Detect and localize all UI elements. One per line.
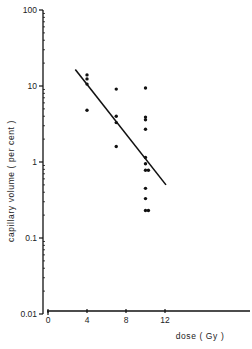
- data-point: [144, 128, 147, 131]
- data-point: [144, 169, 147, 172]
- data-point: [115, 145, 118, 148]
- x-tick-label: 4: [85, 315, 90, 325]
- data-point: [85, 77, 88, 80]
- scatter-chart: 0.010.1110100 04812 capillary volume ( p…: [0, 0, 252, 349]
- y-tick-label: 10: [28, 81, 38, 91]
- data-point: [144, 209, 147, 212]
- x-tick-label: 8: [124, 315, 129, 325]
- data-point: [144, 187, 147, 190]
- y-axis: 0.010.1110100: [20, 5, 45, 319]
- data-point: [144, 197, 147, 200]
- y-tick-label: 0.01: [20, 309, 37, 319]
- y-tick-label: 0.1: [25, 233, 37, 243]
- data-point: [85, 109, 88, 112]
- y-tick-label: 100: [23, 5, 37, 15]
- y-axis-title: capillary volume ( per cent ): [6, 120, 16, 242]
- data-point: [144, 162, 147, 165]
- x-tick-label: 12: [160, 315, 170, 325]
- data-point: [147, 169, 150, 172]
- data-point: [115, 87, 118, 90]
- y-tick-label: 1: [32, 157, 37, 167]
- data-point: [144, 118, 147, 121]
- regression-line: [75, 69, 166, 184]
- data-point: [85, 73, 88, 76]
- data-point: [144, 86, 147, 89]
- plot-area: [75, 69, 166, 212]
- x-tick-label: 0: [46, 315, 51, 325]
- data-point: [115, 115, 118, 118]
- x-axis: 04812: [46, 309, 250, 325]
- x-axis-title: dose ( Gy ): [176, 331, 225, 341]
- data-point: [147, 209, 150, 212]
